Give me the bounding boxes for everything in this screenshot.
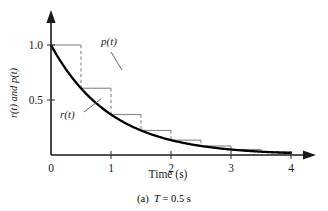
x-tick-label: 0	[48, 162, 54, 174]
exponential-decay-chart: 012340.51.0 p(t) r(t) Time (s) r(t) and …	[0, 0, 328, 211]
figure-caption: (a) T = 0.5 s	[0, 188, 328, 206]
p-of-t-leader-line	[111, 52, 122, 70]
p-of-t-label: p(t)	[100, 35, 117, 48]
p-of-t-annotation: p(t)	[100, 35, 122, 70]
figure-container: 012340.51.0 p(t) r(t) Time (s) r(t) and …	[0, 0, 328, 211]
x-tick-label: 3	[228, 162, 234, 174]
chart-axes	[46, 10, 316, 160]
y-axis-title: r(t) and p(t)	[8, 67, 20, 118]
caption-value: = 0.5 s	[162, 193, 190, 204]
tick-labels: 012340.51.0	[29, 39, 295, 174]
y-tick-label: 0.5	[29, 94, 44, 106]
caption-prefix: (a)	[137, 193, 149, 204]
y-tick-label: 1.0	[29, 39, 44, 51]
p-of-t-staircase-series	[51, 45, 291, 152]
x-axis-title: Time (s)	[149, 168, 188, 181]
r-of-t-label: r(t)	[60, 108, 75, 121]
x-tick-label: 1	[108, 162, 114, 174]
x-tick-label: 4	[288, 162, 294, 174]
